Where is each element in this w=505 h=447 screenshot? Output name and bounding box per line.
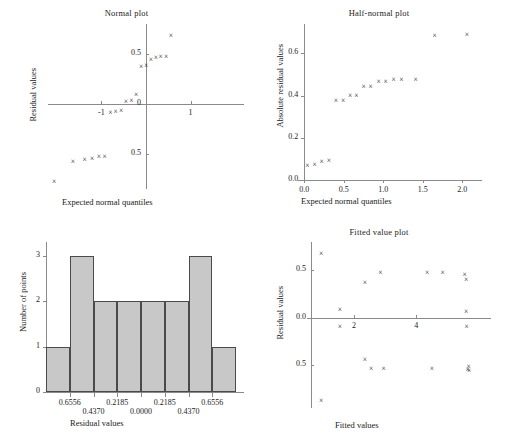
half-normal-plot-data-point: × [354, 92, 358, 100]
half-normal-plot-y-tick-label: 0.6 [288, 47, 298, 56]
histogram-x-tick-label: 0.6556 [201, 398, 223, 407]
half-normal-plot-x-tick [304, 180, 305, 183]
half-normal-plot-title: Half-normal plot [253, 8, 505, 18]
histogram-bar [165, 301, 189, 392]
histogram-x-axis [46, 392, 244, 393]
half-normal-plot-data-point: × [391, 77, 395, 85]
fitted-value-plot-data-point: × [464, 277, 468, 285]
half-normal-plot-data-point: × [320, 158, 324, 166]
half-normal-plot-data-point: × [361, 83, 365, 91]
half-normal-plot-x-tick [462, 180, 463, 183]
histogram-x-tick-label: 0.4370 [83, 407, 105, 416]
normal-plot-data-point: × [144, 62, 148, 70]
fitted-value-plot-y-axis-label: Residual values [275, 286, 285, 340]
half-normal-plot-x-tick-label: 0.5 [339, 185, 349, 194]
half-normal-plot-y-tick-label: 0.2 [288, 132, 298, 141]
histogram-y-tick [43, 301, 46, 302]
half-normal-plot-x-tick-label: 0.0 [299, 185, 309, 194]
normal-plot-y-tick [146, 104, 149, 105]
fitted-value-plot-title: Fitted value plot [253, 227, 505, 237]
normal-plot-y-tick-label: 0.5 [131, 48, 141, 57]
fitted-value-plot-x-axis [307, 318, 491, 319]
normal-plot-x-tick [101, 101, 102, 104]
normal-plot-y-axis [146, 24, 147, 189]
normal-plot-y-axis-label: Residual values [28, 68, 38, 122]
normal-plot-data-point: × [71, 158, 75, 166]
normal-plot-data-point: × [149, 56, 153, 64]
fitted-value-plot-x-tick [354, 315, 355, 318]
normal-plot-x-tick-label: -1 [98, 108, 105, 117]
half-normal-plot-data-point: × [312, 161, 316, 169]
histogram-bar [94, 301, 118, 392]
histogram-x-tick [189, 393, 190, 397]
normal-plot-data-point: × [129, 97, 133, 105]
half-normal-plot-x-tick-label: 1.5 [418, 185, 428, 194]
half-normal-plot-y-axis [304, 24, 305, 180]
half-normal-plot-data-point: × [399, 76, 403, 84]
histogram-x-axis-label: Residual values [70, 418, 124, 428]
histogram-x-tick [117, 393, 118, 397]
half-normal-plot-data-point: × [384, 78, 388, 86]
histogram-y-tick-label: 3 [36, 250, 40, 259]
fitted-value-plot-y-axis [311, 242, 312, 408]
half-normal-plot-panel: Half-normal plot Absolute residual value… [253, 0, 505, 224]
normal-plot-data-point: × [90, 155, 94, 163]
half-normal-plot-data-point: × [432, 32, 436, 40]
fitted-value-plot-data-point: × [319, 398, 323, 406]
fitted-value-plot-x-tick-label: 2 [352, 321, 356, 330]
fitted-value-plot-data-point: × [369, 365, 373, 373]
normal-plot-data-point: × [164, 53, 168, 61]
half-normal-plot-data-point: × [327, 157, 331, 165]
fitted-value-plot-y-tick [311, 365, 314, 366]
half-normal-plot-y-tick-label: 0.4 [288, 90, 298, 99]
normal-plot-data-point: × [82, 156, 86, 164]
fitted-value-plot-data-point: × [338, 323, 342, 331]
histogram-bar [46, 347, 70, 392]
histogram-y-tick [43, 256, 46, 257]
fitted-value-plot-data-point: × [464, 308, 468, 316]
half-normal-plot-y-tick-label: 0.0 [288, 174, 298, 183]
normal-plot-data-point: × [102, 153, 106, 161]
normal-plot-data-point: × [108, 109, 112, 117]
normal-plot-data-point: × [52, 178, 56, 186]
fitted-value-plot-x-tick [416, 315, 417, 318]
histogram-plot-area: 01230.65560.21850.21850.65560.43700.0000… [46, 242, 236, 392]
histogram-panel: Number of points Residual values 01230.6… [0, 224, 253, 447]
half-normal-plot-x-axis-label: Expected normal quantiles [301, 196, 392, 206]
half-normal-plot-data-point: × [414, 76, 418, 84]
half-normal-plot-data-point: × [376, 79, 380, 87]
half-normal-plot-y-tick [301, 96, 304, 97]
histogram-y-tick-label: 0 [36, 386, 40, 395]
histogram-x-tick-label: 0.2185 [106, 398, 128, 407]
half-normal-plot-data-point: × [369, 83, 373, 91]
fitted-value-plot-y-tick-label: 0.0 [296, 312, 306, 321]
histogram-x-tick-label: 0.4370 [178, 407, 200, 416]
histogram-bar [189, 256, 213, 392]
histogram-x-tick [212, 393, 213, 397]
normal-plot-x-tick-label: 1 [189, 108, 193, 117]
fitted-value-plot-data-point: × [465, 323, 469, 331]
histogram-bar [70, 256, 94, 392]
normal-plot-data-point: × [154, 54, 158, 62]
histogram-bar [117, 301, 141, 392]
fitted-value-plot-data-point: × [378, 269, 382, 277]
fitted-value-plot-data-point: × [441, 269, 445, 277]
normal-plot-data-point: × [124, 98, 128, 106]
figure-panel-grid: Normal plot Residual values Expected nor… [0, 0, 505, 447]
fitted-value-plot-y-tick [311, 270, 314, 271]
fitted-value-plot-y-tick-label: 0.5 [296, 359, 306, 368]
normal-plot-data-point: × [169, 32, 173, 40]
half-normal-plot-y-tick [301, 180, 304, 181]
histogram-x-tick [94, 393, 95, 397]
normal-plot-data-point: × [159, 53, 163, 61]
fitted-value-plot-data-point: × [363, 356, 367, 364]
fitted-value-plot-x-axis-label: Fitted values [335, 420, 379, 430]
half-normal-plot-data-point: × [305, 162, 309, 170]
histogram-x-tick [70, 393, 71, 397]
half-normal-plot-y-tick [301, 53, 304, 54]
histogram-x-tick [141, 393, 142, 397]
histogram-y-tick [43, 392, 46, 393]
normal-plot-y-tick [146, 154, 149, 155]
histogram-x-tick [165, 393, 166, 397]
histogram-x-tick-label: 0.6556 [59, 398, 81, 407]
